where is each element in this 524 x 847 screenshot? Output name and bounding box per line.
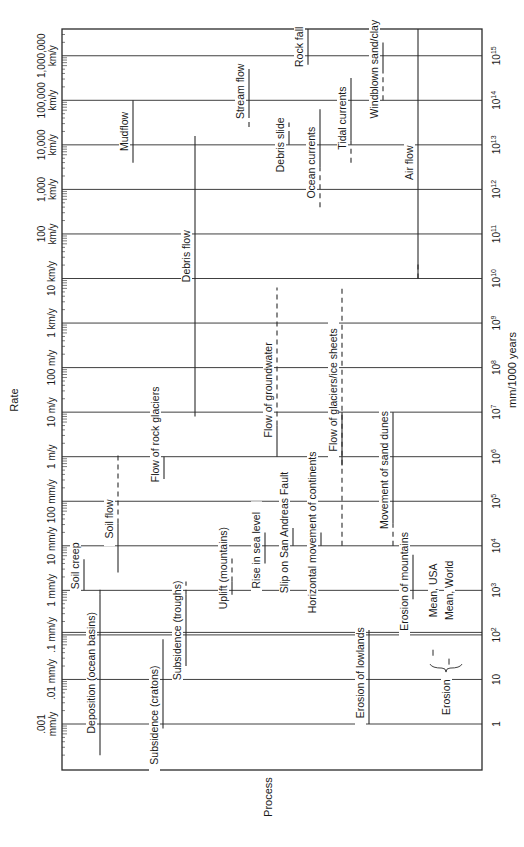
process-label: Flow of glaciers/ice sheets — [327, 328, 339, 451]
process-range: Windblown sand/clay — [368, 15, 383, 124]
svg-text:.01 mm/y: .01 mm/y — [46, 659, 57, 700]
process-range: Horizontal movement of continents — [306, 440, 321, 624]
process-range: Flow of groundwater — [262, 287, 277, 456]
right-tick-label: 1 — [491, 721, 502, 727]
svg-text:10 m/y: 10 m/y — [46, 397, 57, 427]
svg-text:1 mm/y: 1 mm/y — [46, 574, 57, 607]
axis-title-units: mm/1000 years — [506, 332, 518, 408]
process-label: Debris flow — [180, 230, 192, 282]
erosion-means-group: Mean, USAMean, WorldErosion — [427, 558, 462, 722]
svg-text:km/y: km/y — [47, 45, 58, 66]
svg-text:1 m/y: 1 m/y — [46, 444, 57, 468]
process-range: Soil flow — [103, 452, 118, 572]
process-range: Flow of rock glaciers — [149, 375, 164, 494]
process-label: Uplift (mountains) — [217, 527, 229, 609]
svg-text:100: 100 — [36, 225, 47, 242]
svg-text:1,000,000: 1,000,000 — [36, 33, 47, 78]
process-label: Tidal currents — [336, 87, 348, 150]
right-tick-label: 1012 — [490, 180, 502, 199]
left-tick-label: 10 m/y — [46, 397, 57, 427]
process-range: Mudflow — [118, 100, 133, 162]
svg-text:mm/y: mm/y — [47, 712, 58, 736]
left-tick-label: 100 mm/y — [46, 479, 57, 523]
process-range: Tidal currents — [336, 77, 351, 162]
process-range: Subsidence (cratons) — [148, 639, 163, 772]
right-tick-label: 103 — [490, 583, 502, 598]
left-tick-label: 100,000km/y — [36, 82, 58, 119]
svg-text:10,000: 10,000 — [36, 129, 47, 160]
process-range: Rock fall — [293, 20, 308, 75]
process-range: Stream flow — [234, 59, 249, 127]
process-ranges: Soil creepDeposition (ocean basins)Soil … — [69, 15, 462, 772]
right-tick-label: 104 — [490, 538, 502, 553]
process-label: Subsidence (cratons) — [148, 665, 160, 764]
svg-text:10 mm/y: 10 mm/y — [46, 527, 57, 565]
process-label: Mudflow — [118, 112, 130, 152]
svg-text:.001: .001 — [36, 714, 47, 734]
right-axis-mm-per-1000-years: 1101021031041051061071081091010101110121… — [490, 46, 502, 727]
right-tick-label: 10 — [491, 673, 502, 685]
right-tick-label: 106 — [490, 449, 502, 464]
right-tick-label: 105 — [490, 494, 502, 509]
right-tick-label: 1014 — [490, 91, 502, 110]
process-range: Soil creep — [69, 536, 84, 596]
process-label: Erosion of mountains — [398, 532, 410, 631]
svg-text:km/y: km/y — [47, 223, 58, 244]
erosion-group-label: Erosion — [440, 679, 452, 715]
process-label: Rock fall — [293, 27, 305, 67]
left-tick-label: 1 mm/y — [46, 574, 57, 607]
left-tick-label: 10,000km/y — [36, 129, 58, 160]
process-label: Flow of groundwater — [262, 342, 274, 438]
process-label: Slip on San Andreas Fault — [278, 472, 290, 593]
axis-title-process: Process — [262, 777, 274, 817]
left-tick-label: .001mm/y — [36, 712, 58, 736]
process-range: Debris flow — [180, 136, 195, 417]
right-tick-label: 109 — [490, 315, 502, 330]
process-label: Soil creep — [69, 542, 81, 589]
svg-text:100,000: 100,000 — [36, 82, 47, 119]
process-label: Erosion of lowlands — [354, 627, 366, 718]
svg-text:1 km/y: 1 km/y — [46, 308, 57, 337]
svg-text:km/y: km/y — [47, 179, 58, 200]
process-label: Deposition (ocean basins) — [85, 612, 97, 733]
left-tick-label: 1,000km/y — [36, 176, 58, 201]
right-tick-label: 1013 — [490, 135, 502, 154]
svg-text:.1 mm/y: .1 mm/y — [46, 617, 57, 653]
brace-icon — [430, 664, 462, 672]
axis-title-rate: Rate — [8, 388, 20, 411]
process-range: Erosion of mountains — [398, 524, 413, 638]
right-tick-label: 1011 — [490, 225, 502, 243]
svg-text:km/y: km/y — [47, 90, 58, 111]
svg-text:10 km/y: 10 km/y — [46, 261, 57, 296]
process-range: Uplift (mountains) — [217, 516, 232, 619]
left-tick-label: 1 km/y — [46, 308, 57, 337]
right-tick-label: 1010 — [490, 269, 502, 288]
process-label: Flow of rock glaciers — [149, 387, 161, 483]
process-label: Subsidence (troughs) — [171, 581, 183, 681]
process-label: Air flow — [403, 145, 415, 180]
process-label: Rise in sea level — [250, 512, 262, 588]
process-range: Air flow — [403, 29, 418, 278]
left-tick-label: 100 m/y — [46, 350, 57, 386]
svg-text:100 mm/y: 100 mm/y — [46, 479, 57, 523]
right-tick-label: 107 — [490, 405, 502, 420]
svg-text:100 m/y: 100 m/y — [46, 350, 57, 386]
left-tick-label: .1 mm/y — [46, 617, 57, 653]
left-tick-label: 1 m/y — [46, 444, 57, 468]
process-label: Movement of sand dunes — [378, 411, 390, 529]
process-label: Soil flow — [103, 499, 115, 539]
erosion-mean-label: Mean, World — [443, 561, 455, 620]
chart-canvas: Soil creepDeposition (ocean basins)Soil … — [0, 0, 524, 847]
process-label: Windblown sand/clay — [368, 19, 380, 118]
erosion-mean-label: Mean, USA — [427, 563, 439, 617]
process-range: Flow of glaciers/ice sheets — [327, 287, 342, 545]
process-label: Debris slide — [274, 117, 286, 172]
left-tick-label: 10 km/y — [46, 261, 57, 296]
svg-text:1,000: 1,000 — [36, 176, 47, 201]
process-label: Horizontal movement of continents — [306, 452, 318, 614]
left-tick-label: 1,000,000km/y — [36, 33, 58, 78]
left-tick-label: 10 mm/y — [46, 527, 57, 565]
svg-text:km/y: km/y — [47, 134, 58, 155]
process-label: Stream flow — [234, 63, 246, 119]
left-tick-label: 100km/y — [36, 223, 58, 244]
